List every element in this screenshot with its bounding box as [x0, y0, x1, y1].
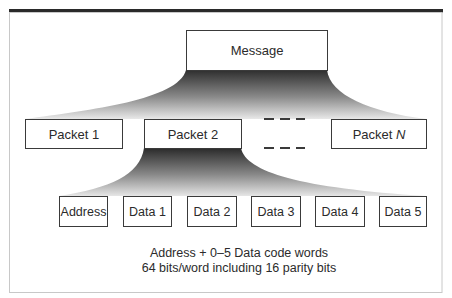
codeword-data-3-box: Data 3: [251, 196, 301, 227]
packet-n-label: Packet N: [353, 127, 406, 142]
codeword-data-1-label: Data 1: [129, 205, 166, 219]
codeword-address-box: Address: [59, 196, 108, 227]
packet-1-box: Packet 1: [25, 119, 123, 149]
packet-n-prefix: Packet: [353, 127, 396, 142]
packet-n-variable: N: [396, 127, 405, 142]
codeword-data-5-label: Data 5: [385, 205, 422, 219]
codeword-address-label: Address: [61, 205, 107, 219]
codeword-data-2-label: Data 2: [194, 205, 231, 219]
diagram-canvas: Message Packet 1 Packet 2 Packet N Addre…: [0, 0, 452, 298]
packet-to-codewords-fan: [59, 148, 426, 196]
message-label: Message: [231, 43, 284, 58]
codeword-data-5-box: Data 5: [379, 196, 427, 227]
codeword-data-4-box: Data 4: [315, 196, 365, 227]
codeword-data-3-label: Data 3: [258, 205, 295, 219]
codeword-data-2-box: Data 2: [187, 196, 237, 227]
codeword-data-4-label: Data 4: [322, 205, 359, 219]
message-box: Message: [186, 30, 328, 71]
caption-line-1: Address + 0–5 Data code words: [13, 246, 452, 261]
top-rule: [9, 9, 443, 13]
caption-line-2: 64 bits/word including 16 parity bits: [13, 261, 452, 276]
packet-2-label: Packet 2: [168, 127, 219, 142]
packet-2-box: Packet 2: [144, 119, 242, 149]
packet-n-box: Packet N: [331, 119, 427, 149]
message-to-packets-fan: [25, 70, 426, 119]
codeword-data-1-box: Data 1: [123, 196, 172, 227]
caption: Address + 0–5 Data code words 64 bits/wo…: [13, 246, 452, 276]
packet-1-label: Packet 1: [49, 127, 100, 142]
